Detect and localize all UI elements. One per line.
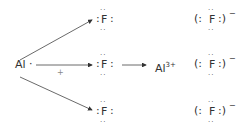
aluminum-atom: Al [15, 59, 26, 71]
arrow-to-f-bottom [20, 77, 92, 110]
aluminum-cation: Al3+ [155, 59, 176, 75]
reaction-arrows [0, 0, 239, 125]
plus-sign: + [57, 67, 64, 79]
arrow-to-f-top [20, 20, 92, 60]
cation-charge: 3+ [166, 61, 176, 69]
aluminum-electron-dot: · [29, 58, 33, 70]
